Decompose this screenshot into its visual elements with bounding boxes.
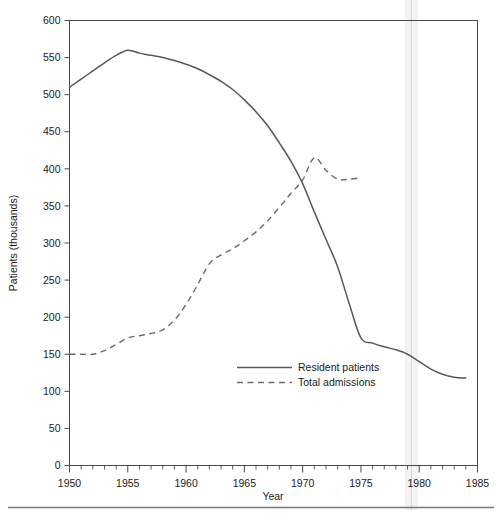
y-tick-label: 550 xyxy=(43,51,61,63)
x-tick-label: 1980 xyxy=(408,477,432,489)
x-tick-label: 1955 xyxy=(116,477,140,489)
x-tick-label: 1975 xyxy=(349,477,373,489)
y-axis-title: Patients (thousands) xyxy=(7,195,19,291)
chart-figure: 050100150200250300350400450500550600 195… xyxy=(0,0,502,521)
y-tick-label: 600 xyxy=(43,14,61,26)
y-tick-label: 350 xyxy=(43,200,61,212)
legend-label-resident-patients: Resident patients xyxy=(298,361,379,373)
x-tick-label: 1965 xyxy=(233,477,257,489)
y-tick-label: 50 xyxy=(49,422,61,434)
y-tick-label: 150 xyxy=(43,348,61,360)
y-tick-label: 450 xyxy=(43,125,61,137)
chart-background xyxy=(0,0,502,521)
y-tick-label: 100 xyxy=(43,385,61,397)
x-tick-label: 1970 xyxy=(291,477,315,489)
x-tick-label: 1950 xyxy=(58,477,82,489)
legend-label-total-admissions: Total admissions xyxy=(298,376,376,388)
x-tick-label: 1960 xyxy=(174,477,198,489)
y-tick-label: 0 xyxy=(55,459,61,471)
x-axis-title: Year xyxy=(262,490,284,502)
y-tick-label: 200 xyxy=(43,311,61,323)
scan-artifact xyxy=(405,0,418,510)
line-chart-svg: 050100150200250300350400450500550600 195… xyxy=(0,0,502,521)
x-tick-label: 1985 xyxy=(466,477,490,489)
y-tick-label: 500 xyxy=(43,88,61,100)
y-tick-label: 250 xyxy=(43,274,61,286)
y-tick-label: 300 xyxy=(43,237,61,249)
y-tick-label: 400 xyxy=(43,163,61,175)
